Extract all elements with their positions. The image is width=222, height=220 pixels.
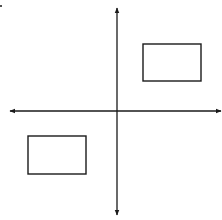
coordinate-plane-diagram	[0, 0, 222, 220]
rectangle-quadrant-3	[28, 136, 86, 174]
rectangle-quadrant-1	[143, 44, 201, 81]
corner-dot	[0, 5, 2, 7]
